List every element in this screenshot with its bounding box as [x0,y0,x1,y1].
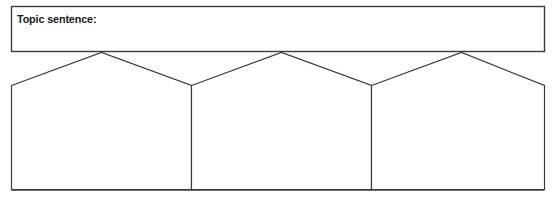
graphic-organizer-worksheet: Topic sentence: [0,0,556,203]
topic-sentence-label: Topic sentence: [17,13,96,26]
topic-sentence-graphic-organizer [0,0,556,203]
detail-pentagon-3[interactable] [372,53,545,190]
detail-pentagon-2[interactable] [192,53,372,190]
detail-pentagon-1[interactable] [12,53,192,190]
